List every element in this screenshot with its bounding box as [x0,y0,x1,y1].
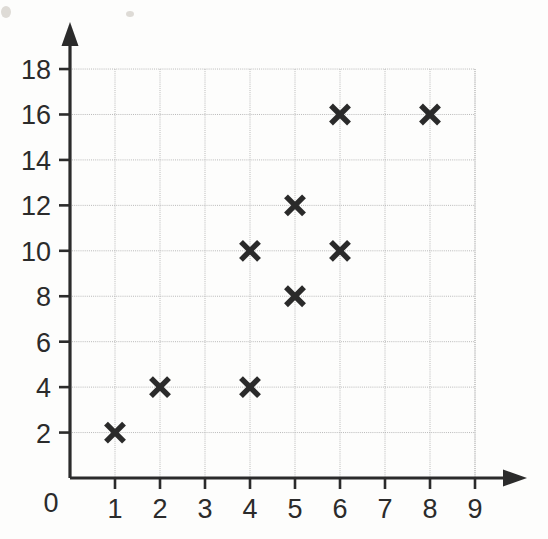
y-axis-tick-label: 18 [21,55,51,85]
data-point-marker [331,105,349,123]
x-axis-arrowhead-icon [503,470,527,487]
data-point-marker [241,242,259,260]
data-points [106,105,439,441]
data-point-marker [331,242,349,260]
y-axis-arrowhead-icon [62,22,79,46]
x-axis-tick-label: 9 [467,494,482,524]
paper-artifacts [1,6,134,18]
origin-label: 0 [43,488,58,518]
x-axis-tick-label: 2 [152,494,167,524]
y-axis-tick-label: 14 [21,146,51,176]
scatter-chart: 123456789246810121416180 [0,0,548,539]
axes [62,22,528,487]
x-axis-tick-label: 6 [332,494,347,524]
x-axis-tick-label: 4 [242,494,257,524]
y-axis-tick-label: 4 [36,373,51,403]
x-axis-tick-label: 1 [107,494,122,524]
y-axis-tick-label: 8 [36,282,51,312]
y-axis-tick-label: 16 [21,100,51,130]
y-axis-tick-label: 10 [21,237,51,267]
x-axis-tick-label: 5 [287,494,302,524]
y-axis-tick-label: 2 [36,419,51,449]
y-axis-tick-label: 6 [36,328,51,358]
x-axis-tick-label: 8 [422,494,437,524]
y-axis-tick-label: 12 [21,191,51,221]
x-axis-tick-label: 7 [377,494,392,524]
gridlines [70,69,475,478]
scatter-plot-page: 123456789246810121416180 [0,0,548,539]
axis-tick-labels: 123456789246810121416180 [21,55,483,524]
x-axis-tick-label: 3 [197,494,212,524]
